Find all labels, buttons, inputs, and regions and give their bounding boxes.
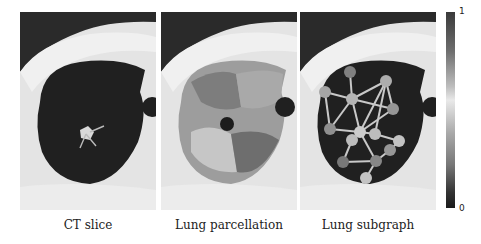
graph-node	[384, 144, 396, 156]
graph-node	[387, 103, 399, 115]
caption-ct-slice: CT slice	[20, 218, 156, 232]
graph-node	[360, 172, 372, 184]
lung-parcellation-image	[161, 12, 297, 210]
colorbar	[446, 12, 455, 208]
caption-lung-subgraph: Lung subgraph	[300, 218, 436, 232]
graph-node	[346, 134, 358, 146]
ct-slice-panel	[20, 12, 156, 210]
colorbar-min-label: 0	[459, 203, 465, 213]
graph-node	[324, 123, 336, 135]
lung-subgraph-panel	[300, 12, 436, 210]
colorbar-max-label: 1	[459, 6, 465, 16]
graph-node	[380, 75, 392, 87]
graph-node	[393, 135, 405, 147]
graph-node	[370, 155, 382, 167]
graph-node	[337, 156, 349, 168]
caption-lung-parcellation: Lung parcellation	[161, 218, 297, 232]
graph-node	[346, 93, 358, 105]
graph-node	[319, 86, 331, 98]
graph-node	[344, 66, 356, 78]
ct-slice-image	[20, 12, 156, 210]
lung-parcellation-panel	[161, 12, 297, 210]
graph-node	[369, 128, 381, 140]
lung-subgraph-image	[300, 12, 436, 210]
